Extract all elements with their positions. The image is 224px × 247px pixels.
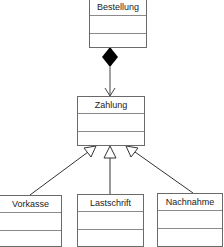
class-name: Vorkasse — [0, 196, 61, 213]
operations-section — [78, 230, 143, 246]
class-lastschrift[interactable]: Lastschrift — [77, 194, 144, 247]
attributes-section — [78, 212, 143, 230]
generalization-line-nachnahme — [135, 152, 193, 193]
class-name: Lastschrift — [78, 195, 143, 212]
class-name: Bestellung — [90, 0, 146, 16]
class-nachnahme[interactable]: Nachnahme — [157, 193, 223, 247]
class-zahlung[interactable]: Zahlung — [77, 96, 145, 146]
attributes-section — [78, 114, 144, 132]
operations-section — [78, 132, 144, 148]
class-bestellung[interactable]: Bestellung — [89, 0, 147, 48]
attributes-section — [0, 213, 61, 231]
class-vorkasse[interactable]: Vorkasse — [0, 195, 62, 247]
attributes-section — [158, 211, 222, 229]
operations-section — [158, 229, 222, 245]
class-name: Zahlung — [78, 97, 144, 114]
composition-diamond-icon — [102, 47, 118, 67]
operations-section — [90, 34, 146, 50]
operations-section — [0, 231, 61, 247]
class-name: Nachnahme — [158, 194, 222, 211]
generalization-line-vorkasse — [30, 152, 88, 195]
attributes-section — [90, 16, 146, 34]
